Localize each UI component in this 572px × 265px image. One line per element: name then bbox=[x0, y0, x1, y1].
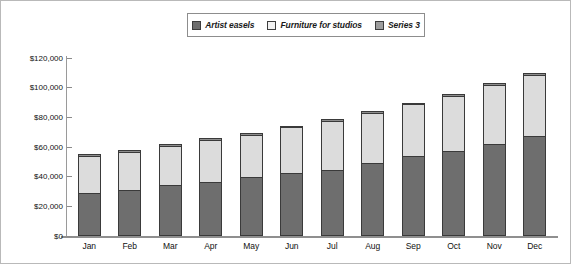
bar-segment-furniture-for-studios[interactable] bbox=[280, 128, 303, 174]
bar-segment-artist-easels[interactable] bbox=[199, 183, 222, 236]
bar-segment-artist-easels[interactable] bbox=[361, 164, 384, 236]
x-axis-label: Feb bbox=[110, 241, 150, 251]
bar-column[interactable] bbox=[483, 58, 506, 236]
x-axis-label: Dec bbox=[515, 241, 555, 251]
bar-column[interactable] bbox=[442, 58, 465, 236]
legend-label-artist-easels: Artist easels bbox=[205, 20, 254, 30]
bar-segment-furniture-for-studios[interactable] bbox=[442, 97, 465, 153]
bar-segment-artist-easels[interactable] bbox=[321, 171, 344, 236]
bar-column[interactable] bbox=[402, 58, 425, 236]
bar-segment-artist-easels[interactable] bbox=[78, 194, 101, 236]
y-axis-tick-label: $0 bbox=[54, 232, 67, 241]
bar-segment-furniture-for-studios[interactable] bbox=[78, 157, 101, 194]
x-axis-label: Apr bbox=[191, 241, 231, 251]
bar-segment-furniture-for-studios[interactable] bbox=[523, 76, 546, 137]
x-axis-label: Mar bbox=[150, 241, 190, 251]
y-axis-tick-label: $120,000 bbox=[30, 54, 67, 63]
bar-column[interactable] bbox=[523, 58, 546, 236]
bar-segment-artist-easels[interactable] bbox=[159, 186, 182, 236]
legend-swatch-icon-furniture-for-studios bbox=[267, 21, 276, 30]
y-axis-tick-label: $100,000 bbox=[30, 83, 67, 92]
bar-segment-artist-easels[interactable] bbox=[523, 137, 546, 236]
bar-column[interactable] bbox=[78, 58, 101, 236]
bar-segment-furniture-for-studios[interactable] bbox=[402, 105, 425, 157]
legend-label-series-3: Series 3 bbox=[388, 20, 420, 30]
x-axis-label: Sep bbox=[393, 241, 433, 251]
bar-segment-artist-easels[interactable] bbox=[280, 174, 303, 236]
bar-segment-artist-easels[interactable] bbox=[483, 145, 506, 236]
legend-swatch-icon-artist-easels bbox=[192, 21, 201, 30]
x-axis-label: Aug bbox=[353, 241, 393, 251]
bar-segment-furniture-for-studios[interactable] bbox=[240, 136, 263, 178]
bar-column[interactable] bbox=[159, 58, 182, 236]
bar-column[interactable] bbox=[280, 58, 303, 236]
bar-segment-furniture-for-studios[interactable] bbox=[361, 114, 384, 164]
bar-column[interactable] bbox=[361, 58, 384, 236]
y-axis-tick-label: $40,000 bbox=[34, 172, 67, 181]
legend-item-furniture-for-studios[interactable]: Furniture for studios bbox=[267, 20, 361, 30]
x-axis-label: May bbox=[231, 241, 271, 251]
x-axis-label: Jul bbox=[312, 241, 352, 251]
bar-segment-furniture-for-studios[interactable] bbox=[199, 141, 222, 183]
bar-segment-furniture-for-studios[interactable] bbox=[159, 147, 182, 186]
y-axis-tick-label: $60,000 bbox=[34, 143, 67, 152]
bar-segment-furniture-for-studios[interactable] bbox=[483, 86, 506, 145]
bar-segment-furniture-for-studios[interactable] bbox=[118, 153, 141, 191]
bar-segment-artist-easels[interactable] bbox=[240, 178, 263, 236]
plot-area bbox=[67, 58, 553, 236]
x-axis-label: Jun bbox=[272, 241, 312, 251]
legend-item-series-3[interactable]: Series 3 bbox=[375, 20, 420, 30]
y-axis-tick-label: $80,000 bbox=[34, 113, 67, 122]
bar-segment-artist-easels[interactable] bbox=[442, 152, 465, 236]
x-axis-line bbox=[61, 236, 558, 238]
legend-label-furniture-for-studios: Furniture for studios bbox=[280, 20, 361, 30]
bar-column[interactable] bbox=[321, 58, 344, 236]
legend-swatch-icon-series-3 bbox=[375, 21, 384, 30]
bar-column[interactable] bbox=[199, 58, 222, 236]
bar-segment-artist-easels[interactable] bbox=[118, 191, 141, 236]
x-axis-label: Nov bbox=[474, 241, 514, 251]
bar-segment-artist-easels[interactable] bbox=[402, 157, 425, 236]
x-axis-label: Oct bbox=[434, 241, 474, 251]
chart-legend: Artist easels Furniture for studios Seri… bbox=[187, 13, 425, 37]
chart-container: Artist easels Furniture for studios Seri… bbox=[0, 0, 571, 264]
y-axis-tick-label: $20,000 bbox=[34, 202, 67, 211]
bar-column[interactable] bbox=[118, 58, 141, 236]
bar-column[interactable] bbox=[240, 58, 263, 236]
legend-item-artist-easels[interactable]: Artist easels bbox=[192, 20, 254, 30]
x-axis-label: Jan bbox=[69, 241, 109, 251]
bar-segment-furniture-for-studios[interactable] bbox=[321, 122, 344, 171]
